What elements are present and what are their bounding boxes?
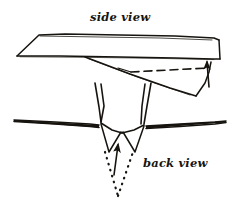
side-view-label: side view	[90, 10, 151, 24]
side-view-wing-right-edge	[219, 40, 220, 59]
back-view-arrow-up-icon	[113, 143, 121, 176]
side-view-fold-dashed-line	[131, 68, 208, 72]
side-view-group: side view	[17, 10, 220, 96]
back-view-body-right-span	[122, 125, 144, 133]
back-view-label: back view	[143, 156, 208, 170]
back-view-group: back view	[14, 83, 226, 196]
back-view-body-left-span	[101, 123, 122, 133]
back-view-left-fin-inner-edge	[101, 84, 104, 122]
figure-canvas: side view	[0, 0, 235, 211]
paper-airplane-diagram: side view	[0, 0, 235, 211]
back-view-left-fin-outer-edge	[95, 83, 101, 122]
back-view-fold-dotted-line	[105, 152, 133, 196]
